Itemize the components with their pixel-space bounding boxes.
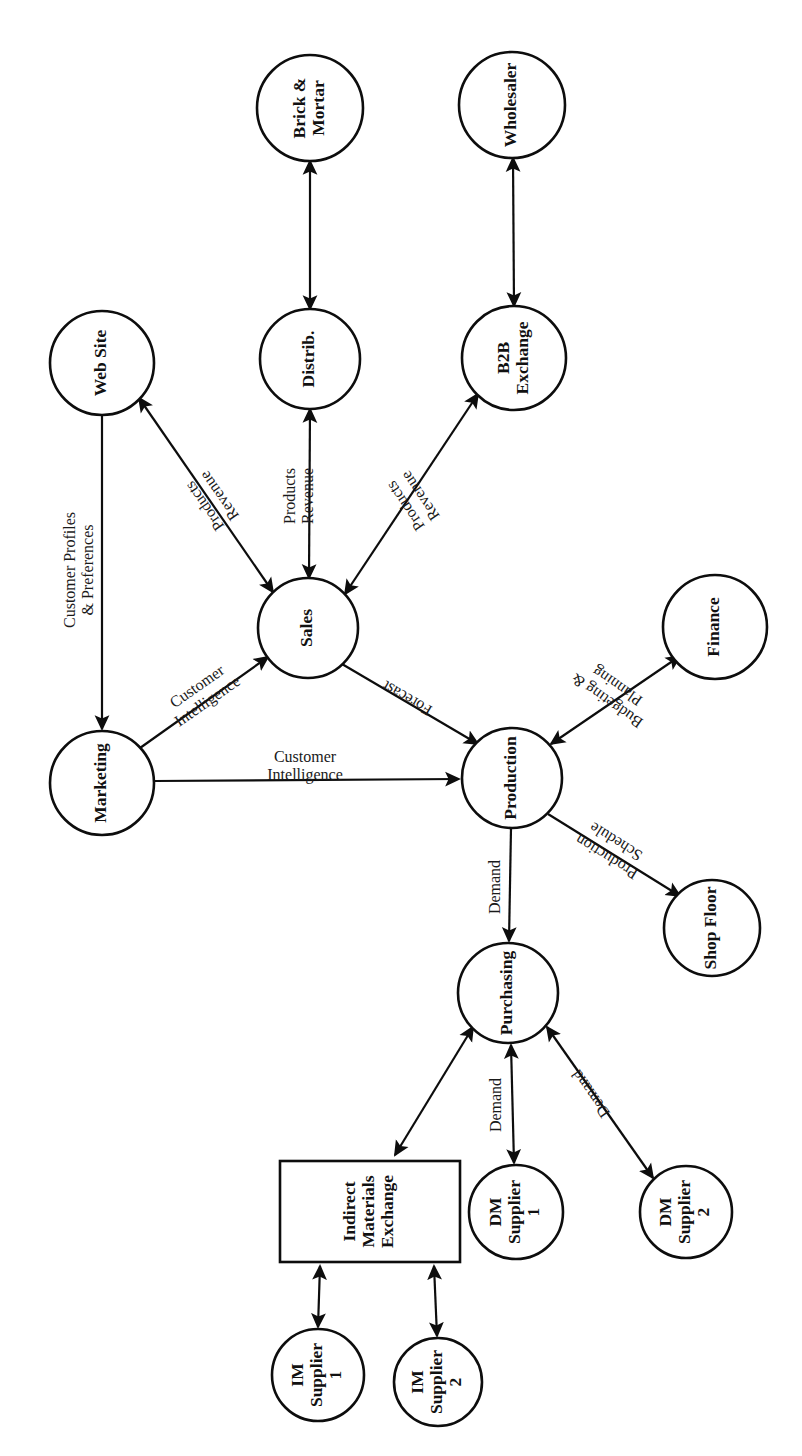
edge-label-sales_production: Forecast bbox=[379, 677, 435, 719]
edge-label-line: Demand bbox=[486, 860, 503, 914]
diagram-svg: Brick &MortarWholesalerWeb SiteDistrib.B… bbox=[0, 0, 802, 1456]
node-label-line: Sales bbox=[296, 609, 316, 647]
node-label-line: 1 bbox=[325, 1371, 345, 1380]
node-label-sales: Sales bbox=[296, 609, 316, 647]
node-web_site[interactable]: Web Site bbox=[50, 311, 154, 415]
edge-label-line: Products bbox=[281, 468, 298, 524]
node-label-line: Web Site bbox=[90, 329, 110, 396]
node-label-line: Supplier bbox=[674, 1180, 694, 1244]
node-marketing[interactable]: Marketing bbox=[50, 731, 154, 835]
node-label-distrib: Distrib. bbox=[298, 331, 318, 388]
node-wholesaler[interactable]: Wholesaler bbox=[459, 52, 565, 158]
node-dm_supplier_1[interactable]: DMSupplier1 bbox=[469, 1165, 563, 1259]
edge-label-sales_distrib: ProductsRevenue bbox=[281, 468, 316, 524]
edge-purchasing_dm1 bbox=[511, 1045, 514, 1163]
node-label-line: Finance bbox=[703, 597, 723, 657]
node-label-line: Supplier bbox=[504, 1180, 524, 1244]
node-label-line: DM bbox=[485, 1197, 505, 1227]
edge-label-web_site_marketing: Customer Profiles& Preferences bbox=[61, 512, 96, 628]
node-label-marketing: Marketing bbox=[90, 743, 110, 823]
edge-label-production_shopfloor: ProductionSchedule bbox=[572, 816, 650, 883]
node-label-line: B2B bbox=[493, 342, 513, 374]
node-label-line: Wholesaler bbox=[500, 62, 520, 147]
node-label-line: Marketing bbox=[90, 743, 110, 823]
edge-label-marketing_sales: CustomerIntelligence bbox=[161, 658, 244, 731]
edge-label-sales_web_site: ProductsRevenue bbox=[181, 468, 242, 534]
node-label-line: 1 bbox=[523, 1208, 543, 1217]
node-label-line: 2 bbox=[445, 1378, 465, 1387]
node-label-line: IM bbox=[287, 1363, 307, 1387]
node-label-brick_mortar: Brick &Mortar bbox=[289, 78, 328, 139]
edge-label-line: Demand bbox=[568, 1067, 613, 1121]
node-label-shop_floor: Shop Floor bbox=[700, 886, 720, 969]
node-label-line: Indirect bbox=[339, 1181, 359, 1241]
node-dm_supplier_2[interactable]: DMSupplier2 bbox=[640, 1166, 732, 1258]
edge-label-line: Customer Profiles bbox=[61, 512, 78, 628]
edge-label-line: Demand bbox=[487, 1078, 504, 1132]
node-finance[interactable]: Finance bbox=[663, 575, 767, 679]
edges-layer bbox=[102, 158, 680, 1336]
edge-label-line: Forecast bbox=[379, 677, 435, 719]
edge-label-line: Intelligence bbox=[267, 766, 343, 784]
node-label-line: Exchange bbox=[377, 1175, 397, 1248]
node-label-web_site: Web Site bbox=[90, 329, 110, 396]
edge-label-line: Revenue bbox=[299, 468, 316, 524]
node-label-line: Exchange bbox=[512, 321, 532, 394]
node-label-ime: IndirectMaterialsExchange bbox=[339, 1175, 397, 1248]
edge-label-line: & Preferences bbox=[79, 524, 96, 615]
node-label-wholesaler: Wholesaler bbox=[500, 62, 520, 147]
edge-label-line: Customer bbox=[274, 748, 337, 765]
diagram-canvas: Brick &MortarWholesalerWeb SiteDistrib.B… bbox=[0, 0, 802, 1456]
node-label-finance: Finance bbox=[703, 597, 723, 657]
edge-label-purchasing_dm1: Demand bbox=[487, 1078, 504, 1132]
node-label-line: DM bbox=[655, 1197, 675, 1227]
node-sales[interactable]: Sales bbox=[258, 578, 358, 678]
node-shop_floor[interactable]: Shop Floor bbox=[664, 880, 760, 976]
node-label-line: Supplier bbox=[426, 1350, 446, 1414]
node-label-line: Mortar bbox=[308, 80, 328, 136]
edge-ime_im1 bbox=[318, 1266, 320, 1327]
node-label-line: Brick & bbox=[289, 78, 309, 139]
edge-production_purchase bbox=[509, 828, 511, 941]
nodes-layer: Brick &MortarWholesalerWeb SiteDistrib.B… bbox=[50, 52, 767, 1426]
node-ime[interactable]: IndirectMaterialsExchange bbox=[280, 1161, 460, 1262]
node-label-line: 2 bbox=[693, 1208, 713, 1217]
node-production[interactable]: Production bbox=[462, 728, 562, 828]
node-label-line: Supplier bbox=[306, 1343, 326, 1407]
edge-label-purchasing_dm2: Demand bbox=[568, 1067, 613, 1121]
node-label-purchasing: Purchasing bbox=[496, 951, 516, 1036]
node-purchasing[interactable]: Purchasing bbox=[458, 943, 558, 1043]
edge-label-production_purchase: Demand bbox=[486, 860, 503, 914]
node-label-line: IM bbox=[407, 1370, 427, 1394]
edge-purchasing_ime bbox=[395, 1027, 473, 1155]
node-distrib[interactable]: Distrib. bbox=[260, 309, 360, 409]
node-label-line: Shop Floor bbox=[700, 886, 720, 969]
node-b2b_exchange[interactable]: B2BExchange bbox=[462, 306, 566, 410]
node-label-line: Materials bbox=[358, 1175, 378, 1247]
node-label-line: Purchasing bbox=[496, 951, 516, 1036]
node-label-line: Production bbox=[500, 736, 520, 820]
node-im_supplier_2[interactable]: IMSupplier2 bbox=[394, 1338, 482, 1426]
node-label-production: Production bbox=[500, 736, 520, 820]
edge-b2b_wholesaler bbox=[513, 158, 514, 306]
edge-label-production_finance: Budgeting &Planning bbox=[567, 654, 656, 731]
node-label-line: Distrib. bbox=[298, 331, 318, 388]
edge-label-marketing_production: CustomerIntelligence bbox=[267, 748, 343, 784]
edge-ime_im2 bbox=[434, 1266, 437, 1336]
node-brick_mortar[interactable]: Brick &Mortar bbox=[257, 55, 363, 161]
node-im_supplier_1[interactable]: IMSupplier1 bbox=[272, 1329, 364, 1421]
